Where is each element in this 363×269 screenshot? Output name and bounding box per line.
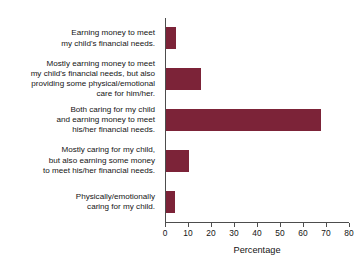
plot-area: 01020304050607080 [165,18,349,222]
category-label: Earning money to meet my child's financi… [0,28,155,48]
x-axis-tick [188,223,189,227]
category-label: Both caring for my child and earning mon… [0,105,155,136]
x-axis-tick-label: 70 [314,228,338,238]
x-axis-title: Percentage [165,245,349,255]
horizontal-bar-chart: Earning money to meet my child's financi… [0,0,363,269]
x-axis-tick [211,223,212,227]
x-axis-tick [280,223,281,227]
x-axis-tick-label: 10 [176,228,200,238]
category-label: Mostly earning money to meet my child's … [0,59,155,100]
bar [166,191,175,213]
bar [166,68,201,90]
x-axis-tick-label: 20 [199,228,223,238]
x-axis-tick-label: 30 [222,228,246,238]
x-axis-tick [234,223,235,227]
x-axis-tick [165,223,166,227]
category-label: Mostly caring for my child, but also ear… [0,145,155,176]
x-axis-tick-label: 80 [337,228,361,238]
x-axis-tick [349,223,350,227]
category-label: Physically/emotionally caring for my chi… [0,192,155,212]
x-axis-tick [303,223,304,227]
bar [166,27,176,49]
bar [166,109,321,131]
x-axis-tick [326,223,327,227]
category-label-column: Earning money to meet my child's financi… [0,18,160,222]
x-axis-tick [257,223,258,227]
x-axis-tick-label: 50 [268,228,292,238]
x-axis-tick-label: 60 [291,228,315,238]
bar [166,150,189,172]
x-axis-tick-label: 40 [245,228,269,238]
x-axis-tick-label: 0 [153,228,177,238]
